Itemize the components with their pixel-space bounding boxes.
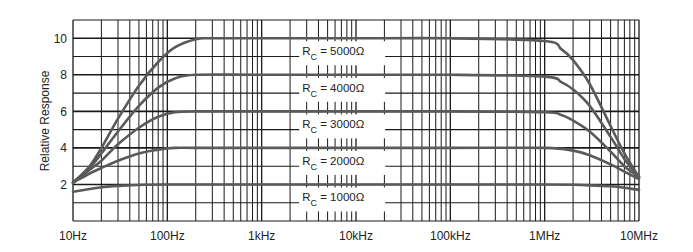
x-tick-label: 100kHz (430, 229, 471, 243)
y-tick-label: 10 (54, 32, 68, 46)
y-tick-label: 2 (60, 178, 67, 192)
x-tick-label: 10MHz (620, 229, 658, 243)
frequency-response-chart: 10Hz100Hz1kHz10kHz100kHz1MHz10MHz 246810… (0, 0, 693, 252)
x-tick-label: 1kHz (248, 229, 275, 243)
y-axis-label: Relative Response (38, 70, 52, 171)
y-tick-label: 6 (60, 105, 67, 119)
x-tick-label: 100Hz (150, 229, 185, 243)
x-tick-label: 10Hz (59, 229, 87, 243)
x-tick-label: 10kHz (339, 229, 373, 243)
x-axis-tick-labels: 10Hz100Hz1kHz10kHz100kHz1MHz10MHz (59, 229, 658, 243)
y-tick-label: 4 (60, 141, 67, 155)
x-tick-label: 1MHz (529, 229, 560, 243)
y-axis-tick-labels: 246810 (54, 32, 68, 192)
y-tick-label: 8 (60, 68, 67, 82)
series-labels: RC = 5000ΩRC = 4000ΩRC = 3000ΩRC = 2000Ω… (299, 41, 385, 211)
